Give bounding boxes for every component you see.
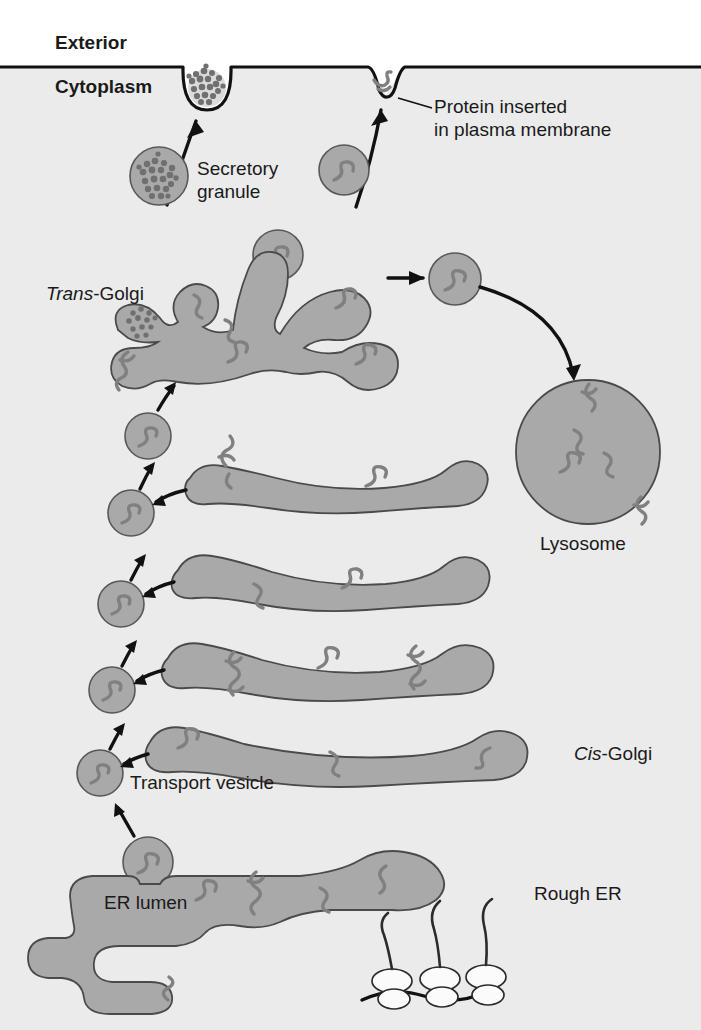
label-cis-golgi-rest: -Golgi [601,743,652,764]
label-exterior: Exterior [55,32,127,53]
label-lysosome: Lysosome [540,533,626,554]
label-protein-inserted-line2: in plasma membrane [434,119,611,140]
label-protein-inserted-line1: Protein inserted [434,96,567,117]
label-trans-golgi-italic: Trans [46,283,94,304]
transport-vesicle-2 [77,750,123,796]
label-trans-golgi: Trans-Golgi [46,283,144,304]
secretory-granule [130,147,188,205]
label-trans-golgi-rest: -Golgi [93,283,144,304]
lysosome-bound-vesicle [429,253,481,305]
transport-vesicle-6 [125,413,171,459]
label-secretory-granule-line1: Secretory [197,158,279,179]
lysosome [516,380,660,524]
label-cytoplasm: Cytoplasm [55,76,152,97]
cell-diagram-canvas: Exterior Cytoplasm Protein inserted in p… [0,0,701,1030]
secretory-pathway-diagram: Exterior Cytoplasm Protein inserted in p… [0,0,701,1030]
label-transport-vesicle: Transport vesicle [130,772,274,793]
membrane-protein-vesicle-upper [319,145,369,195]
label-secretory-granule-line2: granule [197,181,260,202]
label-cis-golgi-italic: Cis [574,743,602,764]
transport-vesicle-4 [98,581,144,627]
transport-vesicle-3 [89,667,135,713]
label-cis-golgi: Cis-Golgi [574,743,652,764]
label-rough-er: Rough ER [534,883,622,904]
transport-vesicle-5 [108,490,154,536]
label-er-lumen: ER lumen [104,892,187,913]
